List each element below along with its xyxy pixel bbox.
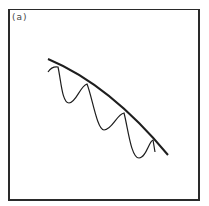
envelope-curve	[48, 59, 168, 155]
oscillation-curve	[48, 67, 155, 158]
decay-diagram	[0, 0, 209, 206]
